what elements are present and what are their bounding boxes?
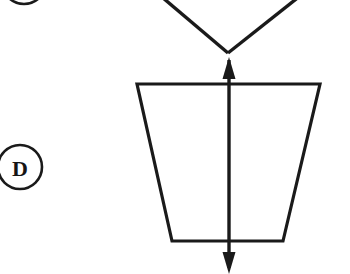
symmetry-diagram: D bbox=[0, 0, 350, 274]
diagram-canvas: D bbox=[0, 0, 350, 274]
d-marker-letter: D bbox=[12, 156, 28, 181]
